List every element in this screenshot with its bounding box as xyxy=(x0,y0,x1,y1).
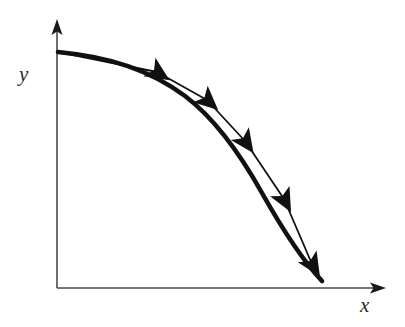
direction-arrow-2 xyxy=(193,86,226,118)
y-axis-label: y xyxy=(19,64,28,85)
figure-canvas: y x xyxy=(0,0,405,327)
curve-chord-underlay xyxy=(58,52,322,281)
curve-group xyxy=(58,52,322,281)
arrowhead-icon xyxy=(193,86,226,118)
x-axis-label: x xyxy=(360,295,369,316)
main-curve xyxy=(58,52,322,281)
curve-diagram xyxy=(0,0,405,327)
direction-arrows-group xyxy=(143,58,329,283)
